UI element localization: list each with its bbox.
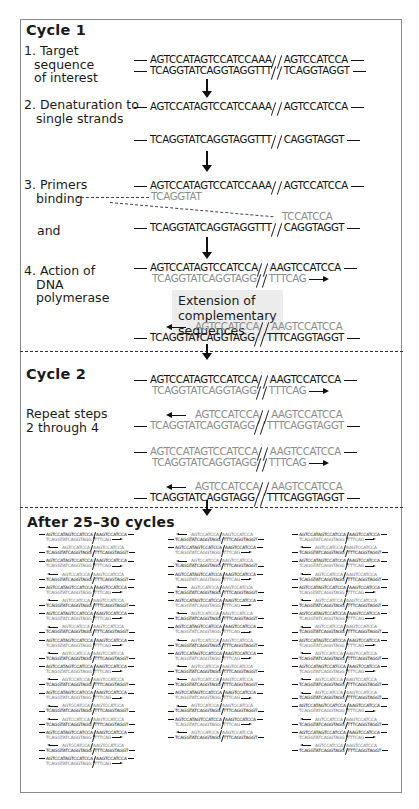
step4-label-line: DNA [24, 278, 109, 292]
step2-label-line: single strands [24, 112, 139, 126]
step4-label-line: polymerase [24, 291, 109, 305]
cycle2-label: Repeat steps 2 through 4 [26, 407, 108, 434]
step1-label: 1. Target sequence of interest [24, 44, 98, 85]
cycle1-heading: Cycle 1 [26, 22, 86, 38]
amplified-duplex: AGTCCATCCAAAGTCCATCCATCAGGTATCAGGTAGGTTT… [38, 624, 136, 634]
step2-top-strand: AGTCCATAGTCCATCCAAAAGTCCATCCA [131, 101, 367, 112]
arrow-right-icon [309, 279, 327, 280]
step1-label-line: 1. Target [24, 44, 98, 58]
amplified-duplex: AGTCCATCCAAAGTCCATCCATCAGGTATCAGGTAGGTTT… [167, 585, 265, 595]
amplified-duplex: AGTCCATCCAAAGTCCATCCATCAGGTATCAGGTAGGTTT… [167, 703, 265, 713]
amplified-duplex: AGTCCATCCAAAGTCCATCCATCAGGTATCAGGTAGGTTT… [291, 598, 389, 608]
amplified-duplex: AGTCCATAGTCCATCCAAAGTCCATCCATCAGGTATCAGG… [38, 638, 136, 648]
amplified-duplex: AGTCCATAGTCCATCCAAAGTCCATCCATCAGGTATCAGG… [38, 690, 136, 700]
step4-dup1-bottom: TCAGGTATCAGGTAGGTTTCAG [152, 273, 330, 284]
amplified-column-3: AGTCCATAGTCCATCCAAAGTCCATCCATCAGGTATCAGG… [291, 532, 389, 756]
step4-label-line: 4. Action of [24, 264, 109, 278]
down-arrow-icon [206, 237, 208, 257]
amplified-duplex: AGTCCATAGTCCATCCAAAGTCCATCCATCAGGTATCAGG… [38, 558, 136, 568]
cycle2-label-line: 2 through 4 [26, 421, 108, 435]
amplified-duplex: AGTCCATAGTCCATCCAAAGTCCATCCATCAGGTATCAGG… [38, 585, 136, 595]
amplified-duplex: AGTCCATCCAAAGTCCATCCATCAGGTATCAGGTAGGTTT… [167, 558, 265, 568]
amplified-duplex: AGTCCATCCAAAGTCCATCCATCAGGTATCAGGTAGGTTT… [291, 545, 389, 555]
cycle2-duplex-bottom: TCAGGTATCAGGTAGGTTTCAGGTAGGT [131, 420, 363, 431]
amplified-duplex: AGTCCATCCAAAGTCCATCCATCAGGTATCAGGTAGGTTT… [291, 572, 389, 582]
amplified-duplex: AGTCCATAGTCCATCCAAAGTCCATCCATCAGGTATCAGG… [291, 703, 389, 713]
section-divider [20, 351, 403, 352]
amplified-duplex: AGTCCATCCAAAGTCCATCCATCAGGTATCAGGTAGGTTT… [167, 638, 265, 648]
down-arrow-icon [206, 79, 208, 96]
amplified-duplex: AGTCCATCCAAAGTCCATCCATCAGGTATCAGGTAGGTTT… [291, 717, 389, 727]
and-label: and [37, 224, 61, 238]
cycle2-duplex-bottom: TCAGGTATCAGGTAGGTTTCAGGTAGGT [131, 492, 363, 503]
amplified-duplex: AGTCCATCCAAAGTCCATCCATCAGGTATCAGGTAGGTTT… [291, 651, 389, 661]
cycle2-duplex-top: AGTCCATCCAAAGTCCATCCA [165, 481, 342, 492]
cycle2-duplex-top: AGTCCATAGTCCATCCAAAGTCCATCCA [131, 374, 360, 385]
step3-top-strand: AGTCCATAGTCCATCCAAAAGTCCATCCA [131, 180, 367, 191]
amplified-duplex: AGTCCATAGTCCATCCAAAGTCCATCCATCAGGTATCAGG… [167, 651, 265, 661]
amplified-duplex: AGTCCATAGTCCATCCAAAGTCCATCCATCAGGTATCAGG… [291, 638, 389, 648]
amplified-duplex: AGTCCATCCAAAGTCCATCCATCAGGTATCAGGTAGGTTT… [38, 677, 136, 687]
down-arrow-icon [206, 151, 208, 170]
cycle2-label-line: Repeat steps [26, 407, 108, 421]
amplified-duplex: AGTCCATAGTCCATCCAAAGTCCATCCATCAGGTATCAGG… [167, 598, 265, 608]
amplified-duplex: AGTCCATCCAAAGTCCATCCATCAGGTATCAGGTAGGTTT… [167, 532, 265, 542]
amplified-duplex: AGTCCATAGTCCATCCAAAGTCCATCCATCAGGTATCAGG… [167, 545, 265, 555]
step1-label-line: of interest [24, 71, 98, 85]
amplified-duplex: AGTCCATAGTCCATCCAAAGTCCATCCATCAGGTATCAGG… [291, 558, 389, 568]
amplified-duplex: AGTCCATCCAAAGTCCATCCATCAGGTATCAGGTAGGTTT… [38, 572, 136, 582]
amplified-duplex: AGTCCATAGTCCATCCAAAGTCCATCCATCAGGTATCAGG… [38, 664, 136, 674]
step3-bottom-strand: TCAGGTATCAGGTAGGTTTCAGGTAGGT [131, 222, 363, 233]
section-divider [20, 507, 403, 508]
cycle2-heading: Cycle 2 [26, 366, 86, 382]
step2-label: 2. Denaturation to single strands [24, 98, 139, 125]
step1-bottom-strand: TCAGGTATCAGGTAGGTTTTCAGGTAGGT [131, 65, 369, 76]
cycle2-duplex-top: AGTCCATCCAAAGTCCATCCA [165, 409, 342, 420]
primer-2: TCCATCCA [282, 211, 332, 222]
step2-label-line: 2. Denaturation to [24, 98, 139, 112]
amplified-duplex: AGTCCATCCAAAGTCCATCCATCAGGTATCAGGTAGGTTT… [291, 690, 389, 700]
amplified-duplex: AGTCCATAGTCCATCCAAAGTCCATCCATCAGGTATCAGG… [167, 572, 265, 582]
amplified-duplex: AGTCCATCCAAAGTCCATCCATCAGGTATCAGGTAGGTTT… [291, 743, 389, 753]
amplified-duplex: AGTCCATAGTCCATCCAAAGTCCATCCATCAGGTATCAGG… [38, 532, 136, 542]
step4-dup2-bottom: TCAGGTATCAGGTAGGTTTCAGGTAGGT [131, 332, 363, 343]
amplified-duplex: AGTCCATCCAAAGTCCATCCATCAGGTATCAGGTAGGTTT… [38, 651, 136, 661]
down-arrow-icon [206, 500, 208, 514]
strand-end-line [353, 71, 366, 72]
step4-label: 4. Action of DNA polymerase [24, 264, 109, 305]
amplified-duplex: AGTCCATAGTCCATCCAAAGTCCATCCATCAGGTATCAGG… [291, 585, 389, 595]
amplified-duplex: AGTCCATAGTCCATCCAAAGTCCATCCATCAGGTATCAGG… [291, 730, 389, 740]
step1-label-line: sequence [24, 58, 98, 72]
primer-pointer-line [76, 197, 149, 198]
amplified-duplex: AGTCCATCCAAAGTCCATCCATCAGGTATCAGGTAGGTTT… [38, 598, 136, 608]
step3-label-line: binding [24, 192, 87, 206]
amplified-duplex: AGTCCATCCAAAGTCCATCCATCAGGTATCAGGTAGGTTT… [38, 545, 136, 555]
strand-end-line [134, 60, 147, 61]
amplified-duplex: AGTCCATCCAAAGTCCATCCATCAGGTATCAGGTAGGTTT… [291, 624, 389, 634]
amplified-duplex: AGTCCATAGTCCATCCAAAGTCCATCCATCAGGTATCAGG… [291, 664, 389, 674]
cycle2-duplex-top: AGTCCATAGTCCATCCAAAGTCCATCCA [131, 446, 360, 457]
amplified-duplex: AGTCCATCCAAAGTCCATCCATCAGGTATCAGGTAGGTTT… [291, 677, 389, 687]
strand-end-line [351, 60, 364, 61]
step3-label: 3. Primers binding [24, 178, 87, 205]
amplified-duplex: AGTCCATCCAAAGTCCATCCATCAGGTATCAGGTAGGTTT… [38, 703, 136, 713]
amplified-duplex: AGTCCATCCAAAGTCCATCCATCAGGTATCAGGTAGGTTT… [167, 611, 265, 621]
amplified-duplex: AGTCCATAGTCCATCCAAAGTCCATCCATCAGGTATCAGG… [167, 624, 265, 634]
step4-dup2-top: AGTCCATCCAAAGTCCATCCA [165, 321, 342, 332]
extension-line: Extension of [178, 293, 277, 308]
amplified-duplex: AGTCCATAGTCCATCCAAAGTCCATCCATCAGGTATCAGG… [167, 690, 265, 700]
strand-end-line [134, 71, 147, 72]
step1-top-strand: AGTCCATAGTCCATCCAAAAGTCCATCCA [131, 54, 367, 65]
down-arrow-icon [206, 344, 208, 358]
amplified-duplex: AGTCCATCCAAAGTCCATCCATCAGGTATCAGGTAGGTTT… [38, 717, 136, 727]
amplified-duplex: AGTCCATCCAAAGTCCATCCATCAGGTATCAGGTAGGTTT… [167, 677, 265, 687]
amplified-duplex: AGTCCATAGTCCATCCAAAGTCCATCCATCAGGTATCAGG… [38, 611, 136, 621]
step2-bottom-strand: TCAGGTATCAGGTAGGTTTCAGGTAGGT [131, 134, 363, 145]
amplified-column-2: AGTCCATCCAAAGTCCATCCATCAGGTATCAGGTAGGTTT… [167, 532, 265, 743]
amplified-duplex: AGTCCATCCAAAGTCCATCCATCAGGTATCAGGTAGGTTT… [38, 743, 136, 753]
amplified-column-1: AGTCCATAGTCCATCCAAAGTCCATCCATCAGGTATCAGG… [38, 532, 136, 769]
amplified-duplex: AGTCCATAGTCCATCCAAAGTCCATCCATCAGGTATCAGG… [38, 756, 136, 766]
amplified-duplex: AGTCCATCCAAAGTCCATCCATCAGGTATCAGGTAGGTTT… [167, 730, 265, 740]
amplified-duplex: AGTCCATCCAAAGTCCATCCATCAGGTATCAGGTAGGTTT… [167, 664, 265, 674]
arrow-left-icon [168, 327, 186, 328]
